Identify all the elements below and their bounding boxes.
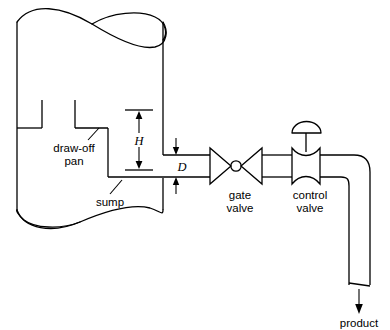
gate-valve-label-line1: gate [229, 189, 251, 201]
H-arrow-down-head [136, 161, 143, 169]
product-label: product [340, 317, 379, 329]
D-arrow-bottom-head [173, 177, 179, 185]
gate-valve-right-body [241, 148, 262, 184]
product-outlet: product [340, 289, 379, 329]
gate-valve-hub-circle [231, 161, 241, 171]
control-valve-label-line1: control [293, 189, 328, 201]
gate-valve-left-body [210, 148, 231, 184]
outlet-pipe-end [349, 283, 370, 286]
D-arrow-top-head [173, 147, 179, 155]
control-valve-actuator-dome [292, 122, 321, 133]
product-outlet-pipe [320, 155, 370, 286]
vessel-bottom-break-line [17, 207, 163, 229]
draw-off-pan-label-line2: pan [64, 155, 83, 167]
pan-leader-line [88, 128, 99, 140]
diameter-dimension-D: D [173, 138, 187, 194]
process-flow-diagram: draw-off pan sump H [0, 0, 390, 330]
height-dimension-H: H [125, 110, 153, 170]
sump: sump [96, 128, 163, 208]
vessel-bottom-break-line-inner [17, 210, 80, 227]
vessel-top-break-line [17, 9, 166, 48]
control-valve-body [292, 148, 320, 184]
gate-valve-label-line2: valve [227, 202, 254, 214]
draw-off-pan-label-line1: draw-off [53, 142, 95, 154]
H-label: H [133, 134, 144, 148]
control-valve: control valve [292, 122, 327, 214]
sump-leader-line [110, 180, 122, 194]
sump-label: sump [96, 196, 124, 208]
diagram-canvas: draw-off pan sump H [0, 0, 390, 330]
draw-off-pan: draw-off pan [17, 100, 108, 167]
gate-valve: gate valve [210, 148, 262, 214]
vessel-top-break-line-inner [92, 13, 166, 40]
D-label: D [176, 160, 186, 174]
product-arrow-head [355, 304, 363, 314]
H-arrow-up-head [136, 111, 143, 119]
control-valve-label-line2: valve [297, 202, 324, 214]
inter-valve-pipe [262, 155, 292, 177]
outlet-pipe-outer-wall [320, 155, 370, 285]
vessel [17, 9, 166, 229]
